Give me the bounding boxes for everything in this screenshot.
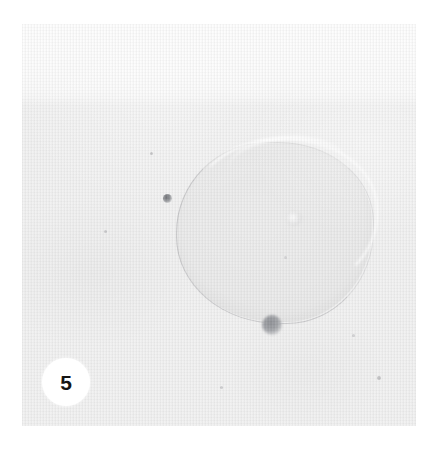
photo-upper-band xyxy=(22,24,416,100)
panel-number-label: 5 xyxy=(60,372,72,393)
droplet-inner-spot xyxy=(286,212,302,226)
translucent-droplet xyxy=(176,142,372,322)
figure-panel: 5 xyxy=(0,0,435,451)
panel-number-badge: 5 xyxy=(42,358,90,406)
